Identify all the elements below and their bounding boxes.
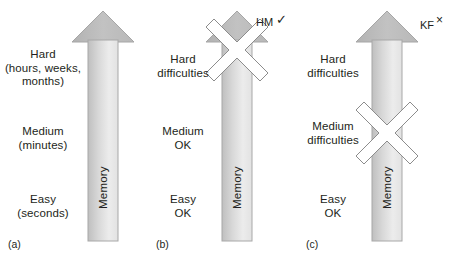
arrow-shaft-a [88,40,118,241]
level-label-hard-b: Hard difficulties [150,53,216,80]
panel-tag-c: (c) [306,238,318,250]
level-label-medium-c: Medium difficulties [298,120,368,147]
shaft-label-c: Memory [381,177,393,209]
level-label-easy-c: Easy OK [298,193,368,220]
panel-c: Memory KF× Hard difficulties Medium diff… [298,0,467,258]
annotation-c: KF× [420,14,443,31]
arrow-shaft-b [222,40,252,241]
panel-b: Memory HM✓ Hard difficulties Medium OK E… [150,0,298,258]
panel-tag-b: (b) [156,238,169,250]
shaft-label-b: Memory [231,177,243,209]
annotation-b: HM✓ [256,14,287,28]
level-label-medium-a: Medium (minutes) [4,125,82,152]
annotation-label-b: HM [256,16,273,28]
panel-tag-a: (a) [8,238,21,250]
level-label-easy-b: Easy OK [150,193,216,220]
arrowhead-c [356,11,418,42]
annotation-label-c: KF [420,19,434,31]
check-icon: ✓ [276,12,287,27]
panel-a: Memory Hard (hours, weeks, months) Mediu… [0,0,150,258]
level-label-easy-a: Easy (seconds) [4,193,82,220]
shaft-label-a: Memory [97,177,109,209]
arrowhead-a [72,11,134,42]
level-label-hard-c: Hard difficulties [298,53,368,80]
cross-icon: × [436,13,443,27]
level-label-medium-b: Medium OK [150,125,216,152]
figure-root: Memory Hard (hours, weeks, months) Mediu… [0,0,467,258]
level-label-hard-a: Hard (hours, weeks, months) [4,48,82,89]
